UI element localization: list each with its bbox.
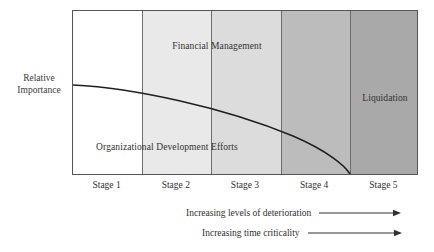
y-axis-label-line1: Relative	[8, 73, 70, 85]
annotation-deterioration-text: Increasing levels of deterioration	[186, 208, 311, 218]
y-axis-label-line2: Importance	[8, 85, 70, 97]
stage-tick-3: Stage 3	[210, 180, 279, 190]
stage-tick-2: Stage 2	[141, 180, 210, 190]
annotation-time-criticality-text: Increasing time criticality	[202, 228, 300, 238]
right-arrow-icon	[308, 224, 402, 242]
right-arrow-icon	[319, 204, 401, 222]
stage-tick-4: Stage 4	[280, 180, 349, 190]
region-label-liquidation: Liquidation	[213, 93, 418, 103]
y-axis-label: Relative Importance	[8, 73, 70, 96]
stage-axis: Stage 1 Stage 2 Stage 3 Stage 4 Stage 5	[72, 180, 418, 194]
stage-model-figure: Relative Importance Financial Management…	[0, 0, 434, 252]
stage-tick-1: Stage 1	[72, 180, 141, 190]
annotation-time-criticality: Increasing time criticality	[202, 226, 402, 240]
stage-tick-5: Stage 5	[349, 180, 418, 190]
annotation-deterioration: Increasing levels of deterioration	[186, 206, 401, 220]
region-label-financial-management: Financial Management	[72, 41, 389, 51]
plot-area: Financial Management Organizational Deve…	[72, 10, 418, 175]
region-label-organizational-development: Organizational Development Efforts	[72, 142, 339, 152]
